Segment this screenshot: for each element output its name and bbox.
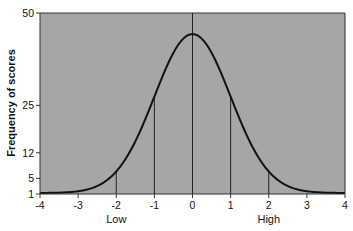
- x-tick-label: -2: [112, 199, 121, 211]
- normal-distribution-chart: -4-3-2-101234 15122550 LowHigh Frequency…: [0, 0, 353, 231]
- x-annotation-low: Low: [106, 213, 126, 225]
- y-tick-label: 25: [22, 99, 34, 111]
- x-axis-annotations: LowHigh: [106, 213, 280, 225]
- y-axis-title: Frequency of scores: [5, 49, 17, 157]
- y-axis-ticks: 15122550: [22, 7, 40, 200]
- x-tick-label: 1: [228, 199, 234, 211]
- x-axis-ticks: -4-3-2-101234: [35, 194, 348, 211]
- x-tick-label: 3: [304, 199, 310, 211]
- x-tick-label: -1: [150, 199, 159, 211]
- x-annotation-high: High: [257, 213, 280, 225]
- x-tick-label: 4: [342, 199, 348, 211]
- y-tick-label: 50: [22, 7, 34, 19]
- x-tick-label: 0: [190, 199, 196, 211]
- x-tick-label: -3: [73, 199, 82, 211]
- y-tick-label: 5: [28, 172, 34, 184]
- x-tick-label: -4: [35, 199, 44, 211]
- y-tick-label: 1: [28, 188, 34, 200]
- y-tick-label: 12: [22, 147, 34, 159]
- x-tick-label: 2: [266, 199, 272, 211]
